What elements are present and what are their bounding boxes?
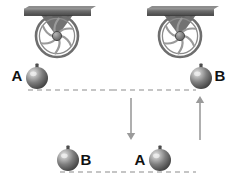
pulley-right-spoke xyxy=(184,36,194,46)
pulley-diagram-figure: ABBA xyxy=(0,0,228,184)
ball-a xyxy=(26,67,48,89)
ball-a-label: A xyxy=(12,67,23,84)
diagram-canvas: ABBA xyxy=(0,0,228,184)
ball-a xyxy=(149,149,171,171)
pulley-left-hub xyxy=(52,31,61,40)
ball-b-highlight xyxy=(61,153,68,158)
initial-state: AB xyxy=(12,6,112,172)
pulley-left-spoke xyxy=(55,40,59,54)
pulley-left-spoke xyxy=(61,36,71,46)
ball-a-label: A xyxy=(135,151,146,168)
ball-a-highlight xyxy=(153,153,160,158)
pulley-right-spoke xyxy=(164,40,178,44)
ball-b-label: B xyxy=(81,151,92,168)
final-state: BA xyxy=(112,6,226,172)
ball-a-highlight xyxy=(30,71,37,76)
arrow-up-b-head xyxy=(196,96,204,103)
ball-b xyxy=(57,149,79,171)
ceiling-beam-right xyxy=(147,9,214,16)
ball-b xyxy=(190,67,212,89)
pulley-right-spoke xyxy=(178,40,182,54)
ceiling-beam-left xyxy=(24,9,91,16)
pulley-left-spoke xyxy=(41,40,55,44)
ball-b-label: B xyxy=(215,67,226,84)
arrow-down-a-head xyxy=(127,133,135,140)
ball-b-highlight xyxy=(194,71,201,76)
pulley-right-hub xyxy=(175,31,184,40)
